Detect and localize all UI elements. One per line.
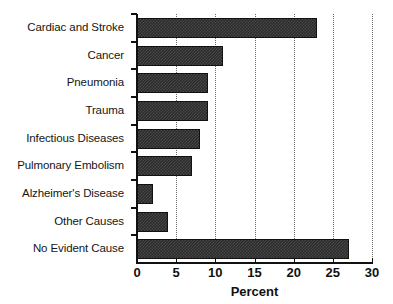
y-axis-category-labels: Cardiac and Stroke Cancer Pneumonia Trau… <box>0 14 130 263</box>
bar-no-evident-cause <box>137 239 349 259</box>
y-axis-label-alzheimers-disease: Alzheimer's Disease <box>0 180 130 208</box>
y-axis-label-no-evident-cause: No Evident Cause <box>0 235 130 263</box>
bar-row <box>137 69 372 97</box>
bar-row <box>137 180 372 208</box>
plot-area <box>137 14 372 263</box>
bar-series <box>137 14 372 263</box>
bar-pulmonary-embolism <box>137 156 192 176</box>
bar-row <box>137 125 372 153</box>
x-axis-tick-label-5: 5 <box>173 266 180 279</box>
y-axis-label-cardiac-and-stroke: Cardiac and Stroke <box>0 14 130 42</box>
bar-row <box>137 235 372 263</box>
x-axis-tick-30 <box>372 258 373 263</box>
bar-infectious-diseases <box>137 129 200 149</box>
x-axis-tick-label-30: 30 <box>365 266 379 279</box>
bar-other-causes <box>137 212 168 232</box>
x-axis-tick-label-25: 25 <box>326 266 340 279</box>
y-axis-label-pulmonary-embolism: Pulmonary Embolism <box>0 152 130 180</box>
y-axis-label-trauma: Trauma <box>0 97 130 125</box>
bar-chart: Cardiac and Stroke Cancer Pneumonia Trau… <box>0 0 393 304</box>
x-axis-tick-label-10: 10 <box>208 266 222 279</box>
bar-row <box>137 152 372 180</box>
y-axis-label-cancer: Cancer <box>0 42 130 70</box>
gridline-30 <box>372 14 373 263</box>
bar-row <box>137 208 372 236</box>
bar-row <box>137 14 372 42</box>
bar-cancer <box>137 46 223 66</box>
y-axis-label-infectious-diseases: Infectious Diseases <box>0 125 130 153</box>
bar-cardiac-and-stroke <box>137 18 317 38</box>
bar-row <box>137 97 372 125</box>
bar-trauma <box>137 101 208 121</box>
y-axis-label-other-causes: Other Causes <box>0 208 130 236</box>
bar-row <box>137 42 372 70</box>
bar-alzheimer-s-disease <box>137 184 153 204</box>
x-axis-tick-label-0: 0 <box>133 266 140 279</box>
x-axis-title: Percent <box>137 285 372 298</box>
x-axis-tick-label-15: 15 <box>247 266 261 279</box>
y-axis-label-pneumonia: Pneumonia <box>0 69 130 97</box>
x-axis-tick-label-20: 20 <box>286 266 300 279</box>
bar-pneumonia <box>137 73 208 93</box>
